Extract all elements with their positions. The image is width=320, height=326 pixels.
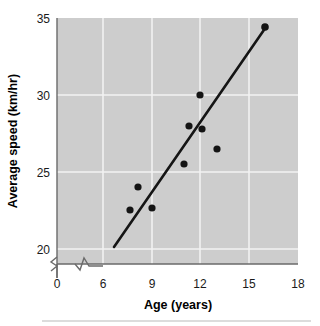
- y-tick-label-35: 35: [37, 12, 51, 26]
- scatter-plot-svg: 35 30 25 20 0 6 9 12 15 18 Age (years) A…: [0, 0, 320, 326]
- data-point: [148, 204, 155, 211]
- x-axis-title: Age (years): [144, 298, 212, 312]
- y-tick-label-25: 25: [37, 166, 51, 180]
- data-point: [261, 23, 269, 31]
- x-tick-label-12: 12: [193, 277, 207, 291]
- data-point: [196, 91, 203, 98]
- chart-figure: 35 30 25 20 0 6 9 12 15 18 Age (years) A…: [0, 0, 320, 326]
- x-tick-label-15: 15: [242, 277, 256, 291]
- data-point: [126, 206, 133, 213]
- data-point: [185, 122, 192, 129]
- data-point: [134, 183, 141, 190]
- data-point: [198, 125, 205, 132]
- x-tick-label-0: 0: [54, 277, 61, 291]
- plot-area-background: [57, 18, 298, 264]
- y-tick-label-20: 20: [37, 243, 51, 257]
- y-tick-label-30: 30: [37, 89, 51, 103]
- data-point: [180, 160, 187, 167]
- x-tick-label-6: 6: [100, 277, 107, 291]
- y-axis-title: Average speed (km/hr): [6, 74, 20, 208]
- x-tick-label-18: 18: [291, 277, 305, 291]
- data-point: [213, 145, 220, 152]
- x-tick-label-9: 9: [149, 277, 156, 291]
